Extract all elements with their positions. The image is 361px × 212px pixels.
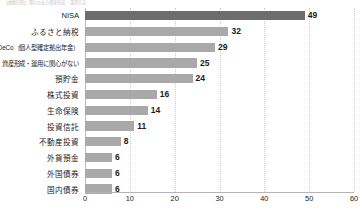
bar-row: 32 <box>85 24 354 40</box>
chart-caption: 【複数回答】関心のある資産形成・運用方法 <box>4 0 86 5</box>
bar-value-label: 24 <box>196 72 205 84</box>
bar-value-label: 25 <box>200 57 209 69</box>
bar <box>85 11 305 20</box>
bar <box>85 58 197 67</box>
bar <box>85 106 148 115</box>
bar <box>85 27 228 36</box>
category-label: 資産形成・運用に関心がない <box>2 55 79 71</box>
bar-value-label: 8 <box>124 135 129 147</box>
bar-value-label: 14 <box>151 104 160 116</box>
bar-row: 11 <box>85 118 354 134</box>
x-tick-30: 30 <box>215 194 223 203</box>
x-axis-tick-labels: 0102030405060 <box>85 194 354 208</box>
bar-chart: 【複数回答】関心のある資産形成・運用方法 NISAふるさと納税iDeCo（個人型… <box>0 0 361 212</box>
category-label: 外国債券 <box>47 166 79 182</box>
category-label: NISA <box>61 8 79 24</box>
x-tick-40: 40 <box>260 194 268 203</box>
category-label: 投資信託 <box>47 118 79 134</box>
category-label: 株式投資 <box>47 87 79 103</box>
bar <box>85 121 134 130</box>
plot-area: 49322925241614118666 <box>85 8 354 192</box>
bar-row: 8 <box>85 134 354 150</box>
bar <box>85 74 193 83</box>
bar-row: 25 <box>85 55 354 71</box>
bar-row: 29 <box>85 40 354 56</box>
bar <box>85 169 112 178</box>
bar-row: 6 <box>85 150 354 166</box>
bar-value-label: 29 <box>218 41 227 53</box>
category-axis-labels: NISAふるさと納税iDeCo（個人型確定拠出年金）資産形成・運用に関心がない預… <box>0 8 82 192</box>
x-tick-20: 20 <box>171 194 179 203</box>
bar <box>85 153 112 162</box>
category-label: 国内債券 <box>47 181 79 197</box>
bar-value-label: 16 <box>160 88 169 100</box>
category-label: 預貯金 <box>55 71 79 87</box>
bar-value-label: 11 <box>137 120 146 132</box>
bar-value-label: 6 <box>115 167 120 179</box>
bar-rows: 49322925241614118666 <box>85 8 354 192</box>
x-tick-10: 10 <box>126 194 134 203</box>
bar <box>85 43 215 52</box>
bar-row: 24 <box>85 71 354 87</box>
category-label: 外貨預金 <box>47 150 79 166</box>
category-label: 不動産投資 <box>39 134 79 150</box>
bar-row: 49 <box>85 8 354 24</box>
x-axis-line <box>85 192 354 193</box>
x-tick-60: 60 <box>350 194 358 203</box>
category-label: ふるさと納税 <box>31 24 79 40</box>
gridline-60 <box>354 8 355 192</box>
bar-row: 6 <box>85 166 354 182</box>
bar-row: 16 <box>85 87 354 103</box>
bar-value-label: 49 <box>308 9 317 21</box>
category-label: iDeCo（個人型確定拠出年金） <box>0 40 79 56</box>
bar <box>85 90 157 99</box>
category-label: 生命保険 <box>47 103 79 119</box>
x-tick-50: 50 <box>305 194 313 203</box>
bar-row: 14 <box>85 103 354 119</box>
x-tick-0: 0 <box>83 194 87 203</box>
bar-value-label: 32 <box>231 25 240 37</box>
bar <box>85 137 121 146</box>
bar-value-label: 6 <box>115 151 120 163</box>
